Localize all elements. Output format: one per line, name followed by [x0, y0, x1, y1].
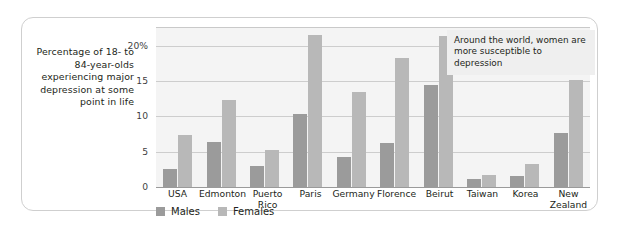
- x-tick-label: Germany: [332, 189, 375, 210]
- bar-group: [156, 28, 199, 187]
- bar-males: [380, 143, 394, 187]
- y-axis-tick-labels: 20%151050: [118, 27, 152, 203]
- bar-males: [163, 169, 177, 187]
- x-tick-label: New Zealand: [547, 189, 590, 210]
- bar-group: [373, 28, 416, 187]
- x-tick-label: Korea: [504, 189, 547, 210]
- bar-group: [199, 28, 242, 187]
- bar-males: [207, 142, 221, 187]
- bar-males: [467, 179, 481, 187]
- bar-females: [569, 80, 583, 187]
- bar-males: [510, 176, 524, 187]
- y-tick-label: 15: [136, 75, 148, 86]
- legend-item-female: Females: [218, 206, 274, 217]
- bar-females: [352, 92, 366, 187]
- bar-group: [243, 28, 286, 187]
- bar-females: [222, 100, 236, 187]
- legend-label: Females: [233, 206, 274, 217]
- y-tick-label: 0: [142, 181, 148, 192]
- bar-males: [554, 133, 568, 187]
- bar-males: [337, 157, 351, 187]
- x-tick-label: Florence: [375, 189, 418, 210]
- bar-females: [395, 58, 409, 187]
- annotation-callout: Around the world, women are more suscept…: [447, 30, 595, 75]
- x-tick-label: Paris: [289, 189, 332, 210]
- y-tick-label: 5: [142, 145, 148, 156]
- bar-males: [424, 85, 438, 187]
- x-tick-label: Beirut: [418, 189, 461, 210]
- bar-group: [286, 28, 329, 187]
- bar-males: [293, 114, 307, 187]
- x-tick-label: Taiwan: [461, 189, 504, 210]
- legend-item-male: Males: [156, 206, 200, 217]
- bar-females: [482, 175, 496, 187]
- y-tick-label: 10: [136, 110, 148, 121]
- y-tick-label: 20%: [128, 39, 148, 50]
- figure-card: Percentage of 18- to 84-year-olds experi…: [21, 17, 598, 211]
- bar-females: [525, 164, 539, 187]
- bar-females: [265, 150, 279, 187]
- legend-swatch-female: [218, 207, 227, 216]
- bar-males: [250, 166, 264, 187]
- legend-swatch-male: [156, 207, 165, 216]
- bar-females: [178, 135, 192, 187]
- bar-females: [308, 35, 322, 187]
- legend: MalesFemales: [156, 206, 274, 217]
- legend-label: Males: [171, 206, 200, 217]
- bar-group: [330, 28, 373, 187]
